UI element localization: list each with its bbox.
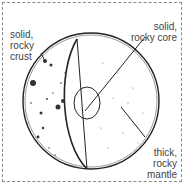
mantle-leader-line xyxy=(121,107,145,137)
crust-inner-outline xyxy=(25,35,157,167)
core-leader-line xyxy=(85,37,145,111)
cut-line xyxy=(77,39,87,169)
mantle-dots xyxy=(100,62,143,148)
diagram-frame: solid, rocky crust solid, rocky core thi… xyxy=(2,2,182,182)
crust-label: solid, rocky crust xyxy=(10,29,34,62)
core-label: solid, rocky core xyxy=(131,21,177,43)
planet-outline xyxy=(23,33,159,169)
cutaway-edge xyxy=(64,39,87,169)
core-shape xyxy=(74,87,100,119)
surface-texture xyxy=(27,59,65,156)
mantle-label: thick, rocky mantle xyxy=(147,147,177,180)
